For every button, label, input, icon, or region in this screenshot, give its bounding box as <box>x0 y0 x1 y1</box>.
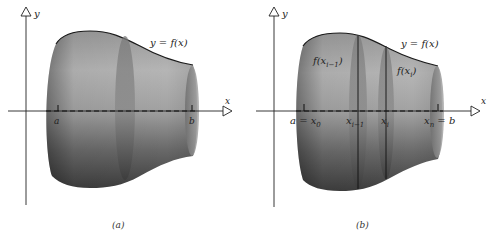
curve-label: y = f(x) <box>149 37 188 48</box>
panel-b: y x y = f(x) f(xi−1) f(xi) a = x0 xi−1 x… <box>256 7 486 230</box>
panel-a: y x y = f(x) a b (a) <box>8 7 232 230</box>
y-axis-label: y <box>281 8 288 19</box>
bound-b-label: b <box>189 116 195 126</box>
x-axis-arrow-icon <box>471 106 480 116</box>
y-axis-arrow-icon <box>269 7 279 16</box>
cross-section-disk <box>115 36 135 180</box>
caption-b: (b) <box>356 220 369 230</box>
curve-label: y = f(x) <box>400 38 439 49</box>
x-axis-arrow-icon <box>223 106 232 116</box>
y-axis-arrow-icon <box>21 7 31 16</box>
end-face <box>430 66 444 158</box>
x-axis-label: x <box>481 96 486 106</box>
caption-a: (a) <box>112 220 125 230</box>
x-axis-label: x <box>225 96 230 106</box>
y-axis-label: y <box>33 8 40 19</box>
bound-a-label: a <box>54 116 59 126</box>
solid-of-revolution-figure: y x y = f(x) a b (a) y x y = f(x) f(xi−1… <box>0 0 488 234</box>
